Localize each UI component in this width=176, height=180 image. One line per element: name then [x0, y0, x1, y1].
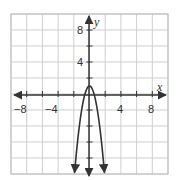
x-tick-label-neg4: −4 [45, 103, 58, 115]
y-tick-label-4: 4 [77, 56, 83, 68]
x-tick-label-4: 4 [117, 103, 123, 115]
x-tick-label-neg8: −8 [14, 103, 27, 115]
y-axis-label: y [93, 15, 100, 29]
x-tick-label-8: 8 [148, 103, 154, 115]
x-axis-label: x [156, 80, 163, 94]
y-tick-label-8: 8 [77, 24, 83, 36]
graph-canvas: x y −8 −4 4 8 8 4 [0, 0, 176, 180]
